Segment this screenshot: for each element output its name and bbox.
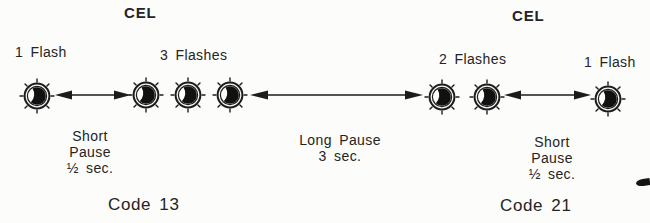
pause-line: Short [67,128,114,144]
lamp-group-3-flashes [128,77,248,113]
short-pause-label-right: Short Pause ½ sec. [529,134,576,182]
code-21-caption: Code 21 [500,196,571,216]
flash-lamp-icon [170,77,206,113]
short-pause-label-left: Short Pause ½ sec. [67,128,114,176]
flash-lamp-icon [212,77,248,113]
cel-heading-left: CEL [124,4,156,21]
pause-line: ½ sec. [529,166,576,182]
cel-heading-right: CEL [512,7,544,24]
code-13-caption: Code 13 [108,195,179,215]
short-pause-arrow-right [504,87,591,103]
flash-lamp-icon [128,77,164,113]
flash-count-label-1flash-right: 1 Flash [584,54,636,70]
pause-line: Long Pause [299,132,381,148]
flash-count-label-2flashes: 2 Flashes [439,51,506,67]
pause-line: Short [529,134,576,150]
flash-lamp-icon [590,81,626,117]
pause-line: Pause [67,144,114,160]
flash-count-label-1flash-left: 1 Flash [15,44,67,60]
flash-lamp-icon [19,78,55,114]
flash-count-label-3flashes: 3 Flashes [160,47,227,63]
pause-line: 3 sec. [299,148,381,164]
short-pause-arrow-left [55,87,131,103]
scan-artifact [636,178,650,187]
pause-line: Pause [529,150,576,166]
flash-lamp-icon [424,79,460,115]
lamp-group-2-flashes [424,79,505,115]
flash-lamp-icon [469,79,505,115]
long-pause-label: Long Pause 3 sec. [299,132,381,164]
lamp-group-1-flash-right [590,81,626,117]
long-pause-arrow [250,87,423,103]
pause-line: ½ sec. [67,160,114,176]
lamp-group-1-flash-left [19,78,55,114]
